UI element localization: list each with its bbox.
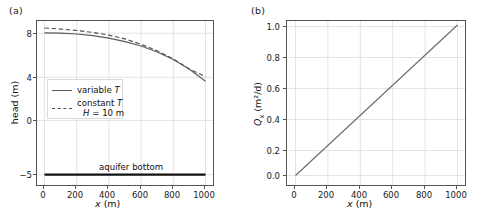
panel-b-ytick-1.0: 1.0: [257, 22, 280, 32]
panel-b-canvas: [287, 21, 465, 185]
panel-a-xtick-200: 200: [65, 190, 85, 200]
panel-a-ytick-minus5: −5: [10, 170, 32, 180]
panel-a-ytick-0: 0: [14, 116, 32, 126]
panel-a-legend: variable T constant T H = 10 m: [47, 79, 123, 119]
panel-a-xtickmark: [107, 186, 108, 189]
panel-a-tag: (a): [9, 5, 23, 16]
legend-row-variable-T: variable T: [52, 83, 117, 97]
curve-constant-T: [45, 28, 206, 77]
panel-a-xtickmark: [75, 186, 76, 189]
figure-root: (a) head (m) 8 4 0 −5: [0, 0, 492, 209]
panel-a-xtickmark: [172, 186, 173, 189]
legend-label-constant-T: constant T H = 10 m: [77, 98, 124, 119]
panel-a-xtick-600: 600: [130, 190, 150, 200]
panel-b-xtickmark: [424, 186, 425, 189]
panel-a: (a) head (m) 8 4 0 −5: [0, 0, 246, 209]
panel-b-gridlines: [287, 21, 465, 185]
panel-b-ytick-0.0: 0.0: [257, 171, 280, 181]
panel-b-ytick-0.2: 0.2: [257, 146, 280, 156]
legend-swatch-dashed: [52, 108, 72, 109]
legend-row-constant-T: constant T H = 10 m: [52, 97, 117, 119]
panel-a-xtickmark: [140, 186, 141, 189]
panel-a-xtick-800: 800: [162, 190, 182, 200]
panel-b-xtick-200: 200: [316, 190, 336, 200]
panel-b-xlabel: x (m): [347, 198, 372, 209]
panel-b-xtickmark: [391, 186, 392, 189]
panel-b-xtick-600: 600: [381, 190, 401, 200]
curve-variable-T: [45, 33, 206, 81]
panel-a-xtickmark: [43, 186, 44, 189]
panel-a-xtick-0: 0: [33, 190, 53, 200]
panel-a-ytick-4: 4: [14, 73, 32, 83]
panel-b-plot-area: [286, 20, 466, 186]
panel-b-xtickmark: [294, 186, 295, 189]
panel-b-ytick-0.6: 0.6: [257, 84, 280, 94]
panel-a-xtickmark: [204, 186, 205, 189]
panel-b-ylabel: Qx (m²/d): [252, 72, 266, 136]
panel-a-xtick-1000: 1000: [192, 190, 216, 200]
panel-b-ytick-0.8: 0.8: [257, 53, 280, 63]
panel-b-xtickmark: [326, 186, 327, 189]
aquifer-bottom-label: aquifer bottom: [99, 162, 163, 172]
curve-discharge-Qx: [296, 25, 458, 176]
panel-b-xtick-1000: 1000: [444, 190, 468, 200]
panel-a-ytick-8: 8: [14, 29, 32, 39]
panel-b-xtickmark: [456, 186, 457, 189]
panel-b-ytick-0.4: 0.4: [257, 115, 280, 125]
panel-b-xtick-800: 800: [414, 190, 434, 200]
panel-b-xtick-0: 0: [284, 190, 304, 200]
legend-label-variable-T: variable T: [77, 85, 120, 96]
legend-swatch-solid: [52, 90, 72, 91]
panel-b: (b) Qx (m²/d) 1.0 0.8 0.6 0.4 0.2 0.0: [246, 0, 492, 209]
panel-b-xtickmark: [359, 186, 360, 189]
panel-a-xlabel: x (m): [95, 198, 120, 209]
panel-b-tag: (b): [251, 5, 265, 16]
